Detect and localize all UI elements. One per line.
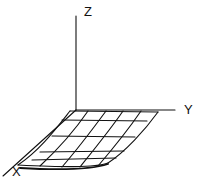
- x-axis-label: X: [12, 165, 21, 178]
- surface-plot: [0, 0, 199, 185]
- y-axis-label: Y: [184, 103, 193, 116]
- z-axis-label: Z: [84, 5, 92, 18]
- surface-mesh: [18, 111, 158, 169]
